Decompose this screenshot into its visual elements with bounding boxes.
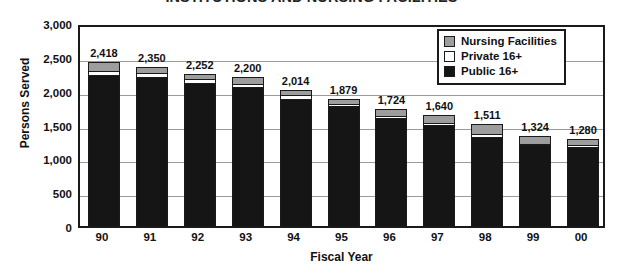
y-axis-tick: 1,500 [20,121,72,133]
bar-group[interactable]: 2,252 [184,23,216,226]
bar-stack[interactable] [375,109,407,226]
bar-stack[interactable] [519,136,551,226]
x-axis-tick: 90 [96,231,109,243]
x-axis-tick: 00 [575,231,588,243]
x-axis-tick: 99 [527,231,540,243]
y-axis-tick: 2,000 [20,87,72,99]
bar-value-label: 1,879 [330,84,358,96]
bar-segment-public-16plus [424,126,454,226]
bar-stack[interactable] [184,74,216,226]
bar-segment-public-16plus [233,88,263,226]
x-axis-tick: 91 [143,231,156,243]
bar-segment-public-16plus [329,107,359,226]
legend-swatch-icon [444,51,455,62]
legend-swatch-icon [444,36,455,47]
y-axis-tick-labels: 05001,0001,5002,0002,5003,000 [16,0,72,274]
bar-stack[interactable] [567,139,599,226]
bar-value-label: 2,418 [90,47,118,59]
x-axis-tick: 94 [287,231,300,243]
x-axis-tick: 92 [191,231,204,243]
legend-item[interactable]: Nursing Facilities [444,34,557,49]
bar-segment-nursing-facilities [137,67,167,74]
y-axis-tick: 0 [20,222,72,234]
bar-segment-public-16plus [281,100,311,226]
y-axis-tick: 3,000 [20,19,72,31]
legend-label: Private 16+ [461,51,522,63]
bar-segment-public-16plus [185,84,215,226]
x-axis-tick: 97 [431,231,444,243]
bar-value-label: 2,252 [186,59,214,71]
bar-group[interactable]: 2,200 [232,23,264,226]
x-axis-title: Fiscal Year [78,250,605,264]
bar-segment-public-16plus [520,146,550,226]
bar-stack[interactable] [88,62,120,226]
legend: Nursing FacilitiesPrivate 16+Public 16+ [437,29,566,85]
bar-group[interactable]: 1,724 [375,23,407,226]
bar-value-label: 2,200 [234,62,262,74]
bar-value-label: 1,640 [426,100,454,112]
bar-segment-public-16plus [472,138,502,226]
bar-group[interactable]: 2,014 [280,23,312,226]
bar-group[interactable]: 2,350 [136,23,168,226]
legend-label: Public 16+ [461,66,518,78]
bar-segment-public-16plus [568,148,598,226]
x-axis-tick-labels: 9091929394959697989900 [78,231,605,249]
bar-value-label: 1,724 [378,94,406,106]
bar-value-label: 2,014 [282,75,310,87]
legend-swatch-icon [444,66,455,77]
bar-stack[interactable] [136,67,168,226]
bar-segment-nursing-facilities [424,115,454,124]
x-axis-tick: 93 [239,231,252,243]
bar-segment-public-16plus [137,78,167,226]
bar-segment-public-16plus [89,76,119,226]
legend-label: Nursing Facilities [461,36,557,48]
legend-item[interactable]: Private 16+ [444,49,557,64]
chart-screenshot: INSTITUTIONS AND NURSING FACILITIES Pers… [0,0,623,274]
bar-segment-nursing-facilities [568,139,598,146]
chart-title: INSTITUTIONS AND NURSING FACILITIES [0,0,623,5]
bar-stack[interactable] [471,124,503,226]
bar-stack[interactable] [423,115,455,226]
bar-group[interactable]: 1,879 [328,23,360,226]
bar-stack[interactable] [232,77,264,226]
y-axis-tick: 1,000 [20,154,72,166]
bar-stack[interactable] [280,90,312,226]
y-axis-tick: 500 [20,188,72,200]
bar-group[interactable]: 2,418 [88,23,120,226]
bar-value-label: 1,511 [474,109,501,121]
bar-segment-nursing-facilities [89,62,119,71]
bar-value-label: 1,280 [569,124,597,136]
x-axis-tick: 96 [383,231,396,243]
bar-segment-nursing-facilities [376,109,406,117]
y-axis-tick: 2,500 [20,53,72,65]
x-axis-tick: 98 [479,231,492,243]
bar-value-label: 1,324 [521,121,549,133]
bar-segment-public-16plus [376,119,406,226]
bar-segment-nursing-facilities [472,124,502,136]
bar-stack[interactable] [328,99,360,226]
bar-segment-nursing-facilities [233,77,263,85]
bar-segment-nursing-facilities [520,136,550,144]
bar-group[interactable]: 1,280 [567,23,599,226]
legend-item[interactable]: Public 16+ [444,64,557,79]
x-axis-tick: 95 [335,231,348,243]
bar-value-label: 2,350 [138,52,166,64]
